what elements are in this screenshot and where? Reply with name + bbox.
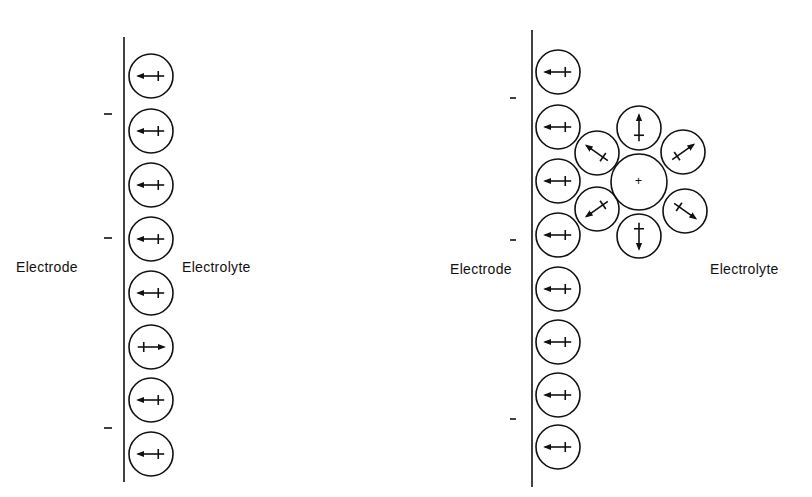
right-water-dipoles — [536, 50, 580, 469]
cation-charge: + — [635, 174, 642, 188]
left-electrode-label: Electrode — [16, 259, 78, 275]
left-electrolyte-label: Electrolyte — [182, 259, 251, 275]
double-layer-diagram — [0, 0, 812, 497]
left-water-dipoles — [129, 54, 173, 476]
right-electrode-label: Electrode — [450, 261, 512, 277]
right-electrolyte-label: Electrolyte — [710, 261, 779, 277]
